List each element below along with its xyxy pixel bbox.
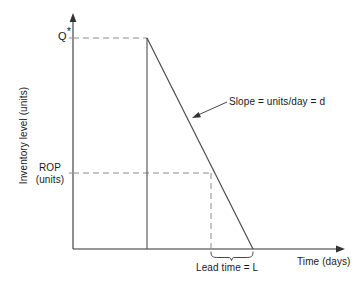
slope-leader-line (198, 102, 227, 115)
lead-time-brace (211, 252, 253, 261)
slope-leader-arrowhead (192, 112, 201, 118)
y-axis-arrowhead (70, 13, 77, 22)
y-axis-title: Inventory level (units) (18, 66, 29, 206)
slope-annotation: Slope = units/day = d (229, 96, 325, 107)
x-axis-arrowhead (336, 246, 345, 253)
q-star-letter: Q (58, 30, 67, 42)
q-star-label: Q* (58, 31, 71, 42)
lead-time-annotation-symbol: L (253, 262, 259, 273)
depletion-slope-line (147, 38, 253, 249)
lead-time-annotation-text: Lead time = (196, 262, 253, 273)
x-axis-title: Time (days) (297, 256, 351, 267)
rop-label-line1: ROP (31, 162, 69, 174)
inventory-sawtooth-chart: Inventory level (units) Q* ROP (units) S… (0, 0, 363, 286)
lead-time-annotation: Lead time = L (196, 262, 258, 273)
q-star-asterisk: * (67, 25, 71, 37)
rop-label-line2: (units) (31, 174, 69, 186)
rop-label: ROP (units) (31, 162, 69, 186)
slope-annotation-text: Slope = units/day = (229, 96, 319, 107)
slope-annotation-symbol: d (319, 96, 325, 107)
chart-canvas (0, 0, 363, 286)
